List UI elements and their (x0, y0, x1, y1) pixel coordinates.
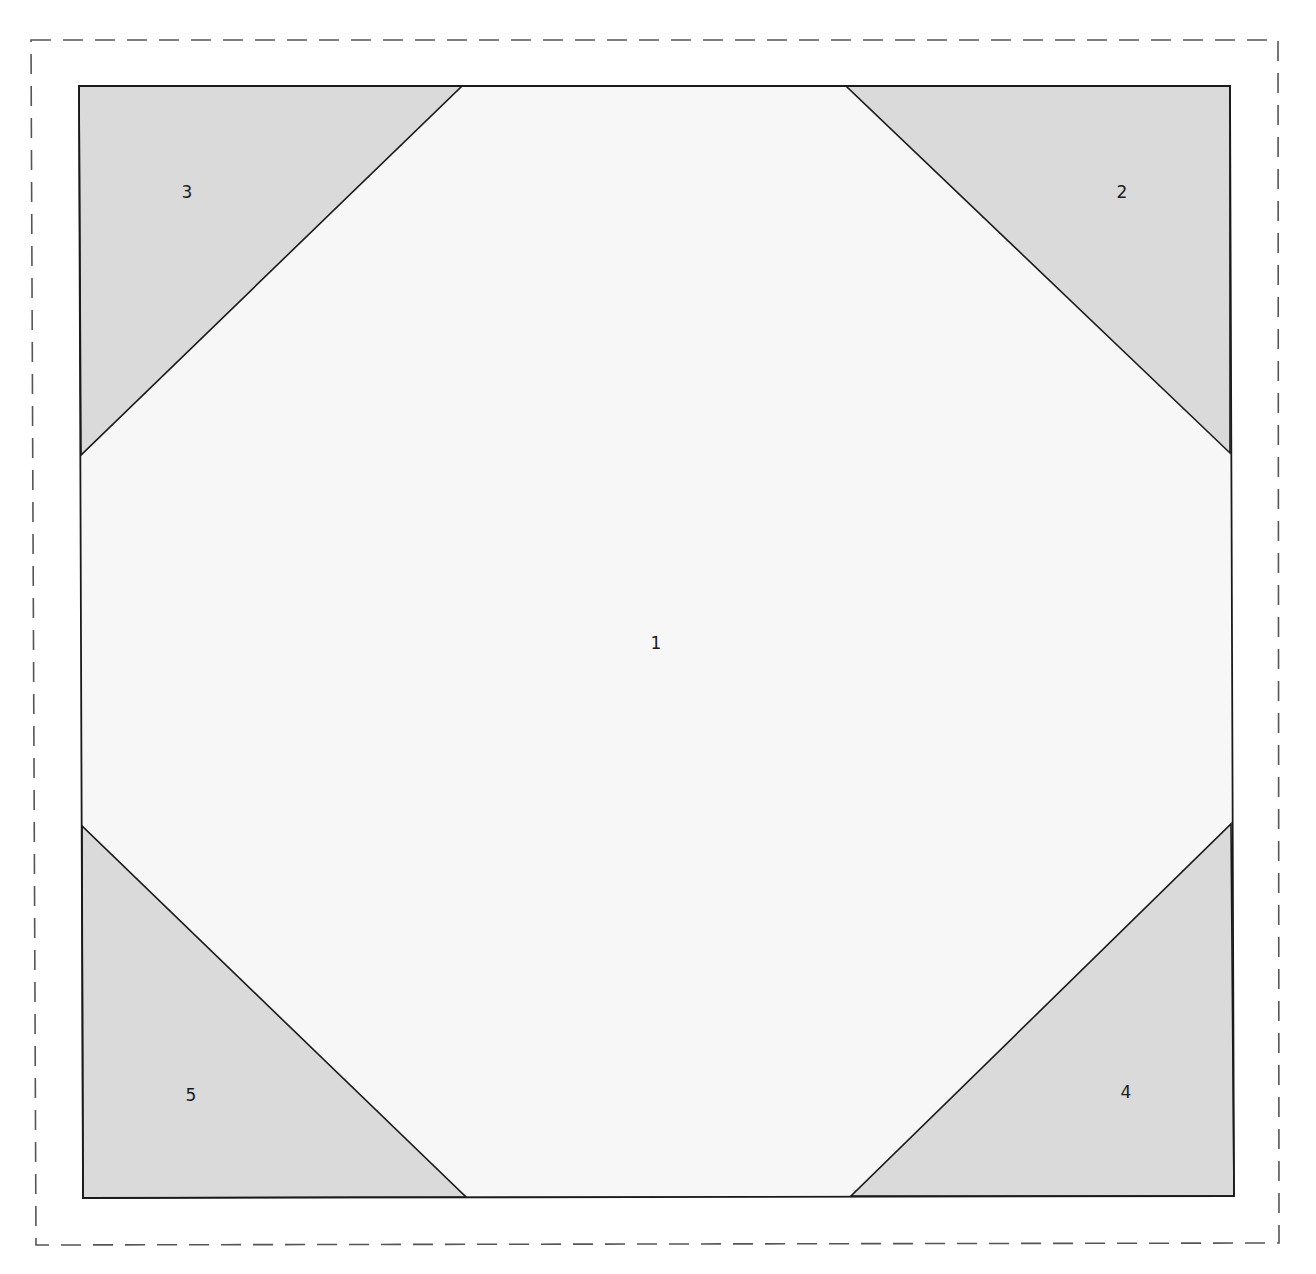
quilt-block-diagram: 3 2 1 5 4 (0, 0, 1316, 1274)
piece-label-3: 3 (182, 182, 193, 202)
piece-label-5: 5 (186, 1085, 197, 1105)
piece-label-2: 2 (1117, 182, 1128, 202)
piece-label-4: 4 (1121, 1082, 1132, 1102)
piece-label-1: 1 (651, 633, 662, 653)
